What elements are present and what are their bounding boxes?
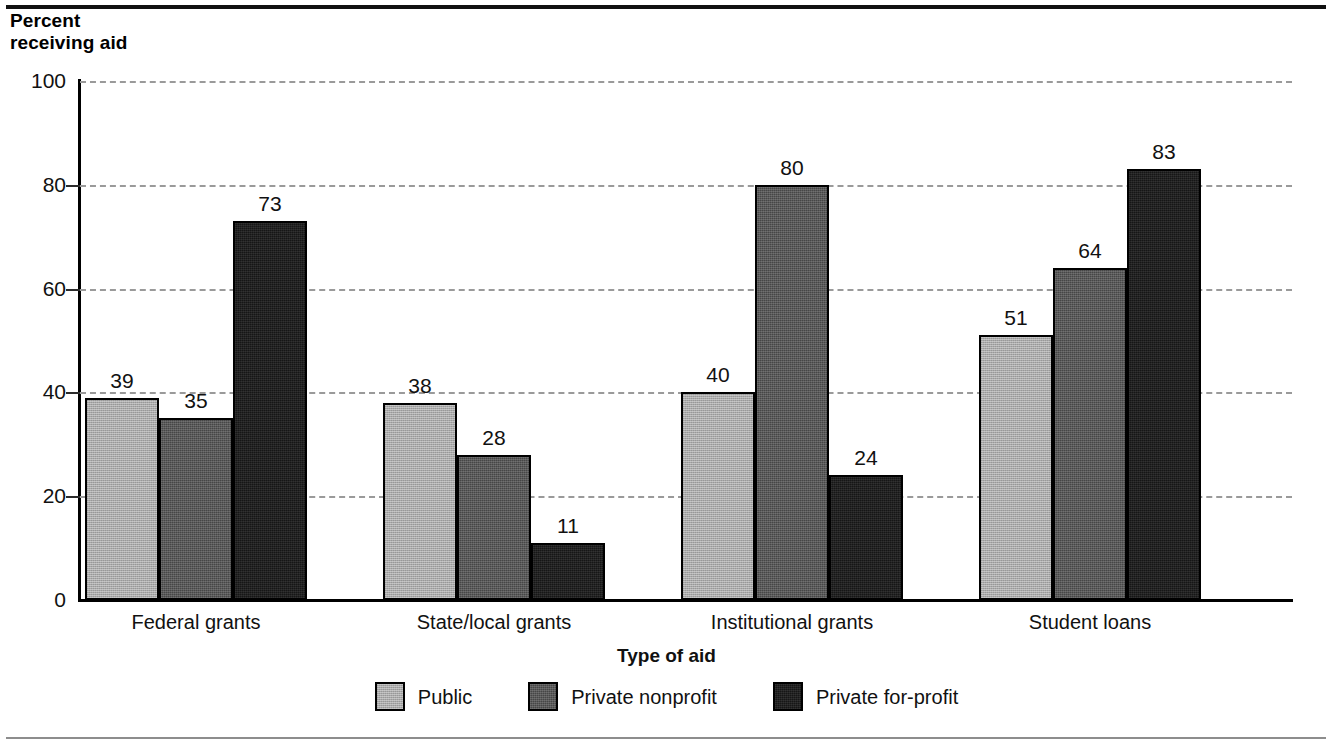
legend-item-label: Public xyxy=(418,687,472,707)
bar xyxy=(829,475,903,600)
x-axis-category-label: State/local grants xyxy=(344,612,644,632)
bottom-divider-rule xyxy=(6,737,1326,739)
y-axis-tick-mark xyxy=(66,496,80,498)
legend-item[interactable]: Private nonprofit xyxy=(528,682,717,711)
y-axis-caption: Percentreceiving aid xyxy=(10,10,127,54)
y-axis-tick-label: 100 xyxy=(4,70,66,91)
legend-item-label: Private for-profit xyxy=(816,687,958,707)
x-axis-category-label: Institutional grants xyxy=(642,612,942,632)
legend-item[interactable]: Private for-profit xyxy=(773,682,958,711)
legend-swatch-icon xyxy=(773,682,803,711)
bar xyxy=(681,392,755,600)
y-axis-caption-line-1: Percent xyxy=(10,10,127,32)
chart-legend: PublicPrivate nonprofitPrivate for-profi… xyxy=(0,682,1333,711)
y-axis-tick-label: 60 xyxy=(4,278,66,299)
bar xyxy=(1127,169,1201,600)
x-axis-category-label: Student loans xyxy=(940,612,1240,632)
legend-item[interactable]: Public xyxy=(375,682,472,711)
y-axis-tick-label: 20 xyxy=(4,485,66,506)
y-axis-tick-label: 0 xyxy=(4,589,66,610)
bar-value-label: 83 xyxy=(1127,141,1201,162)
legend-swatch-icon xyxy=(375,682,405,711)
bar xyxy=(457,455,531,600)
bar xyxy=(1053,268,1127,600)
bar xyxy=(159,418,233,600)
bar xyxy=(383,403,457,600)
bar-value-label: 40 xyxy=(681,364,755,385)
bar-value-label: 35 xyxy=(159,390,233,411)
y-axis-tick-mark xyxy=(66,289,80,291)
top-divider-rule xyxy=(6,5,1326,9)
plot-area: 393573382811408024516483 xyxy=(80,81,1292,600)
bar-value-label: 38 xyxy=(383,375,457,396)
bar-value-label: 64 xyxy=(1053,240,1127,261)
gridline xyxy=(80,81,1292,83)
y-axis-tick-label: 40 xyxy=(4,381,66,402)
legend-item-label: Private nonprofit xyxy=(571,687,717,707)
bar xyxy=(755,185,829,600)
y-axis-tick-mark xyxy=(66,185,80,187)
bar-value-label: 80 xyxy=(755,157,829,178)
bar-value-label: 73 xyxy=(233,193,307,214)
bar-value-label: 28 xyxy=(457,427,531,448)
legend-swatch-icon xyxy=(528,682,558,711)
bar-value-label: 51 xyxy=(979,307,1053,328)
bar xyxy=(531,543,605,600)
bar xyxy=(233,221,307,600)
y-axis-tick-label: 80 xyxy=(4,174,66,195)
bar xyxy=(85,398,159,600)
y-axis-caption-line-2: receiving aid xyxy=(10,32,127,54)
bar xyxy=(979,335,1053,600)
y-axis-tick-mark xyxy=(66,392,80,394)
bar-value-label: 11 xyxy=(531,515,605,536)
gridline xyxy=(80,185,1292,187)
x-axis-category-label: Federal grants xyxy=(46,612,346,632)
bar-value-label: 24 xyxy=(829,447,903,468)
bar-value-label: 39 xyxy=(85,370,159,391)
x-axis-title: Type of aid xyxy=(0,645,1333,667)
